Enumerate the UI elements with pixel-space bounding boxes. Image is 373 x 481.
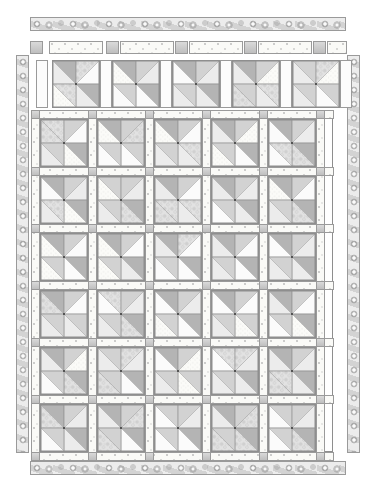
pinwheel-block <box>268 404 316 452</box>
pinwheel-block <box>40 119 88 167</box>
cornerstone-square <box>202 110 211 119</box>
pinwheel-block <box>154 404 202 452</box>
pinwheel-block <box>211 404 259 452</box>
cornerstone-square <box>202 281 211 290</box>
pinwheel-block <box>154 233 202 281</box>
sashing-strip-horizontal <box>34 338 334 347</box>
cornerstone-square <box>316 110 325 119</box>
pinwheel-block <box>40 404 88 452</box>
cornerstone-square <box>88 452 97 461</box>
cornerstone-square <box>31 110 40 119</box>
cornerstone-square <box>259 167 268 176</box>
sashing-strip-horizontal <box>34 452 334 461</box>
pinwheel-block <box>97 233 145 281</box>
cornerstone-square <box>202 167 211 176</box>
pinwheel-block <box>97 176 145 224</box>
pinwheel-block <box>52 60 100 108</box>
pinwheel-block <box>40 233 88 281</box>
cornerstone-square <box>145 167 154 176</box>
pinwheel-block <box>268 290 316 338</box>
quilt-diagram-canvas <box>0 0 373 481</box>
cornerstone-square <box>259 224 268 233</box>
pinwheel-block <box>154 290 202 338</box>
cornerstone-square <box>259 338 268 347</box>
cornerstone-square <box>88 110 97 119</box>
cornerstone-square <box>88 395 97 404</box>
cornerstone-square <box>202 395 211 404</box>
pinwheel-block <box>154 119 202 167</box>
cornerstone-square <box>145 452 154 461</box>
cornerstone-square <box>259 110 268 119</box>
block-and-sashing-component-row <box>0 0 373 120</box>
sashing-strip-horizontal <box>34 395 334 404</box>
cornerstone-square <box>316 281 325 290</box>
pinwheel-block <box>268 347 316 395</box>
pinwheel-block <box>232 60 280 108</box>
pinwheel-block <box>154 347 202 395</box>
vertical-sashing-strip <box>36 60 48 108</box>
pinwheel-block <box>292 60 340 108</box>
vertical-sashing-strip <box>340 60 352 108</box>
pinwheel-block <box>211 347 259 395</box>
cornerstone-square <box>31 224 40 233</box>
pinwheel-block <box>211 290 259 338</box>
pinwheel-block <box>112 60 160 108</box>
sashing-strip-horizontal <box>34 281 334 290</box>
cornerstone-square <box>316 224 325 233</box>
pinwheel-block <box>172 60 220 108</box>
sashing-strip-horizontal <box>34 224 334 233</box>
pinwheel-block <box>268 176 316 224</box>
pinwheel-block <box>40 176 88 224</box>
cornerstone-square <box>316 452 325 461</box>
bottom-border-strip <box>30 461 346 475</box>
vertical-sashing-strip <box>220 60 232 108</box>
cornerstone-square <box>145 338 154 347</box>
cornerstone-square <box>145 281 154 290</box>
pinwheel-block <box>40 290 88 338</box>
cornerstone-square <box>145 395 154 404</box>
pinwheel-block <box>40 347 88 395</box>
cornerstone-square <box>88 224 97 233</box>
vertical-sashing-strip <box>160 60 172 108</box>
pinwheel-block <box>211 176 259 224</box>
pinwheel-block <box>97 290 145 338</box>
cornerstone-square <box>316 167 325 176</box>
cornerstone-square <box>31 281 40 290</box>
cornerstone-square <box>88 338 97 347</box>
pinwheel-block <box>268 119 316 167</box>
cornerstone-square <box>145 110 154 119</box>
cornerstone-square <box>316 395 325 404</box>
pinwheel-block <box>97 119 145 167</box>
cornerstone-square <box>202 452 211 461</box>
cornerstone-square <box>259 452 268 461</box>
cornerstone-square <box>145 224 154 233</box>
main-quilt-body <box>33 112 333 452</box>
cornerstone-square <box>31 338 40 347</box>
cornerstone-square <box>202 338 211 347</box>
cornerstone-square <box>88 167 97 176</box>
vertical-sashing-strip <box>280 60 292 108</box>
pinwheel-block <box>97 404 145 452</box>
pinwheel-block <box>154 176 202 224</box>
pinwheel-block <box>211 119 259 167</box>
cornerstone-square <box>31 452 40 461</box>
vertical-sashing-strip <box>100 60 112 108</box>
cornerstone-square <box>316 338 325 347</box>
pinwheel-block <box>211 233 259 281</box>
sashing-strip-horizontal <box>34 110 334 119</box>
cornerstone-square <box>259 395 268 404</box>
cornerstone-square <box>88 281 97 290</box>
cornerstone-square <box>202 224 211 233</box>
cornerstone-square <box>31 395 40 404</box>
cornerstone-square <box>31 167 40 176</box>
pinwheel-block <box>268 233 316 281</box>
sashing-strip-horizontal <box>34 167 334 176</box>
cornerstone-square <box>259 281 268 290</box>
pinwheel-block <box>97 347 145 395</box>
